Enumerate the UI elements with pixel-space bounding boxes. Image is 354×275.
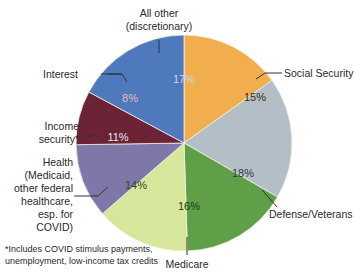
pct-health: 14% bbox=[125, 179, 147, 191]
pct-defense: 18% bbox=[232, 167, 254, 179]
pie-slices bbox=[76, 35, 292, 251]
label-defense: Defense/Veterans bbox=[269, 208, 352, 220]
label-health-line4: healthcare, bbox=[21, 195, 73, 207]
pct-social-security: 15% bbox=[244, 91, 266, 103]
footnote-line2: unemployment, low-income tax credits bbox=[5, 256, 159, 266]
pct-interest: 8% bbox=[122, 92, 138, 104]
label-income-line2: security* bbox=[39, 133, 79, 145]
label-health-line3: other federal bbox=[14, 182, 73, 194]
label-health-line2: (Medicaid, bbox=[25, 169, 73, 181]
pct-all-other: 17% bbox=[173, 73, 195, 85]
label-health-line1: Health bbox=[43, 156, 74, 168]
pie-chart: 17% 15% 18% 16% 14% 11% 8% All other (di… bbox=[0, 0, 354, 275]
label-all-other-line2: (discretionary) bbox=[126, 20, 193, 32]
label-health-line6: COVID) bbox=[36, 221, 73, 233]
label-social-security: Social Security bbox=[284, 67, 354, 79]
label-interest: Interest bbox=[43, 68, 78, 80]
label-all-other-line1: All other bbox=[140, 7, 179, 19]
footnote-line1: *Includes COVID stimulus payments, bbox=[5, 244, 153, 254]
label-income-line1: Income bbox=[45, 120, 80, 132]
pct-medicare: 16% bbox=[178, 200, 200, 212]
label-medicare: Medicare bbox=[165, 258, 208, 270]
pct-income-security: 11% bbox=[107, 131, 128, 143]
label-health-line5: esp. for bbox=[38, 208, 74, 220]
